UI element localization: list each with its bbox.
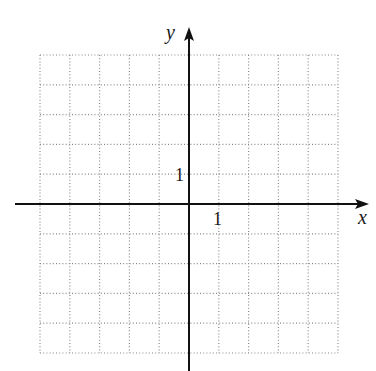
x-axis-label: x bbox=[357, 206, 367, 228]
x-tick-label: 1 bbox=[213, 209, 222, 229]
y-axis bbox=[184, 27, 194, 371]
x-axis bbox=[15, 199, 369, 209]
coordinate-plane: y x 1 1 bbox=[0, 0, 376, 371]
y-tick-label: 1 bbox=[175, 165, 184, 185]
y-axis-label: y bbox=[164, 21, 175, 44]
